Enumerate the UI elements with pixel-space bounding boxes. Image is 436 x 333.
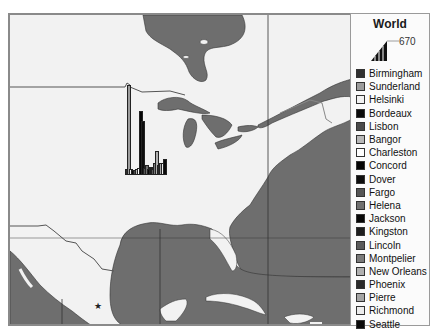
swatch: [356, 109, 365, 118]
legend-item[interactable]: Sunderland: [356, 80, 427, 93]
bar-chart-overlay: [125, 71, 169, 175]
swatch: [356, 214, 365, 223]
swatch: [356, 82, 365, 91]
swatch: [356, 267, 365, 276]
legend-item[interactable]: Richmond: [356, 304, 427, 317]
swatch: [356, 122, 365, 131]
legend-panel: World 670 Birmingham Sunderland Helsinki…: [350, 13, 430, 326]
legend-item[interactable]: Charleston: [356, 146, 427, 159]
swatch: [356, 320, 365, 329]
swatch: [356, 175, 365, 184]
legend-max-value: 670: [399, 36, 416, 47]
swatch: [356, 69, 365, 78]
legend-item[interactable]: Phoenix: [356, 278, 427, 291]
legend-item[interactable]: Fargo: [356, 186, 427, 199]
swatch: [356, 161, 365, 170]
swatch: [356, 201, 365, 210]
legend-item[interactable]: Kingston: [356, 225, 427, 238]
legend-item[interactable]: Concord: [356, 159, 427, 172]
map-canvas[interactable]: ★: [10, 15, 350, 326]
legend-item[interactable]: Bordeaux: [356, 107, 427, 120]
swatch: [356, 95, 365, 104]
map-view[interactable]: ★: [8, 13, 350, 326]
legend-item[interactable]: Montpelier: [356, 252, 427, 265]
swatch: [356, 254, 365, 263]
bar: [127, 85, 131, 175]
legend-item[interactable]: Birmingham: [356, 67, 427, 80]
legend-item[interactable]: Pierre: [356, 291, 427, 304]
legend-list: Birmingham Sunderland Helsinki Bordeaux …: [356, 67, 427, 331]
swatch: [356, 241, 365, 250]
swatch: [356, 148, 365, 157]
capital-star-icon: ★: [94, 301, 102, 311]
swatch: [356, 135, 365, 144]
legend-item[interactable]: Helena: [356, 199, 427, 212]
legend-item[interactable]: Bangor: [356, 133, 427, 146]
swatch: [356, 227, 365, 236]
legend-item[interactable]: Jackson: [356, 212, 427, 225]
swatch: [356, 188, 365, 197]
swatch: [356, 306, 365, 315]
legend-item[interactable]: Lisbon: [356, 120, 427, 133]
swatch: [356, 280, 365, 289]
legend-title: World: [351, 17, 429, 31]
legend-item[interactable]: New Orleans: [356, 265, 427, 278]
bar: [163, 159, 167, 175]
legend-item[interactable]: Dover: [356, 173, 427, 186]
legend-item[interactable]: Helsinki: [356, 93, 427, 106]
legend-item[interactable]: Seattle: [356, 318, 427, 331]
swatch: [356, 293, 365, 302]
legend-item[interactable]: Lincoln: [356, 238, 427, 251]
